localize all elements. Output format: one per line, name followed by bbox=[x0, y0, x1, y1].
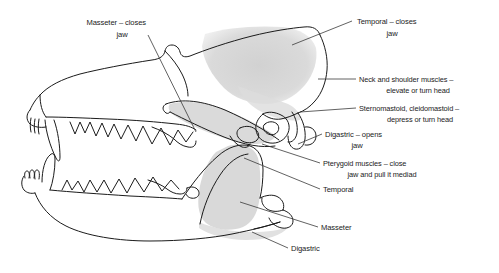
label-sternomastoid-line2: depress or turn head bbox=[387, 115, 453, 124]
label-masseter-mandible: Masseter bbox=[321, 223, 352, 232]
label-pterygoid-line1: Pterygoid muscles – close bbox=[323, 159, 406, 168]
label-temporal-closes-jaw-line2: jaw bbox=[385, 29, 398, 38]
label-neck-shoulder-line1: Neck and shoulder muscles – bbox=[359, 75, 454, 84]
label-temporal-mandible: Temporal bbox=[323, 185, 354, 194]
label-digastric-opens-jaw-line2: jaw bbox=[350, 141, 363, 150]
label-sternomastoid-line1: Sternomastoid, cleidomastoid – bbox=[359, 104, 460, 113]
label-masseter-closes-jaw-line2: jaw bbox=[115, 30, 128, 39]
label-temporal-closes-jaw-line1: Temporal – closes bbox=[357, 17, 417, 26]
label-neck-shoulder-line2: elevate or turn head bbox=[386, 86, 450, 95]
label-digastric-opens-jaw-line1: Digastric – opens bbox=[325, 130, 382, 139]
label-digastric-mandible: Digastric bbox=[291, 244, 320, 253]
skull-diagram-svg: Masseter – closes jaw Temporal – closes … bbox=[0, 0, 499, 273]
label-pterygoid-line2: jaw and pull it mediad bbox=[347, 170, 417, 179]
anatomical-figure: Masseter – closes jaw Temporal – closes … bbox=[0, 0, 499, 273]
label-masseter-closes-jaw-line1: Masseter – closes bbox=[87, 18, 147, 27]
